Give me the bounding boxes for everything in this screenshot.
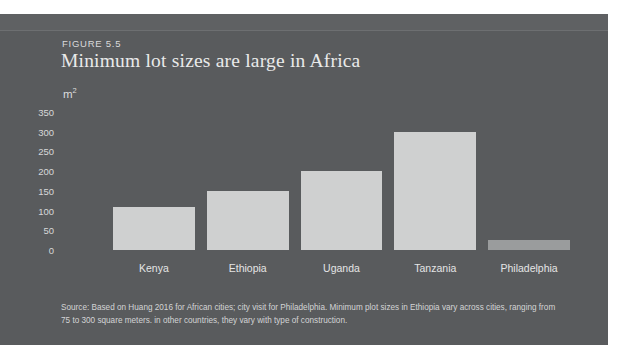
- bar[interactable]: [394, 132, 476, 250]
- y-axis-tick-label: 250: [10, 146, 54, 157]
- source-note: Source: Based on Huang 2016 for African …: [61, 302, 559, 327]
- y-axis-tick-label: 100: [10, 205, 54, 216]
- y-axis-tick-label: 350: [10, 107, 54, 118]
- y-axis-tick-label: 300: [10, 126, 54, 137]
- x-axis-category-label: Philadelphia: [500, 262, 557, 274]
- x-axis-category-label: Ethiopia: [229, 262, 267, 274]
- bar[interactable]: [207, 191, 289, 250]
- x-axis-category-label: Tanzania: [414, 262, 456, 274]
- x-axis-category-label: Kenya: [139, 262, 169, 274]
- x-axis-category-label: Uganda: [323, 262, 360, 274]
- bar[interactable]: [488, 240, 570, 250]
- bar-chart-plot: 050100150200250300350 KenyaEthiopiaUgand…: [0, 14, 608, 345]
- bar[interactable]: [301, 171, 383, 250]
- y-axis-tick-label: 50: [10, 225, 54, 236]
- y-axis-tick-label: 0: [10, 245, 54, 256]
- y-axis-tick-label: 200: [10, 166, 54, 177]
- y-axis-tick-label: 150: [10, 185, 54, 196]
- figure-panel: FIGURE 5.5 Minimum lot sizes are large i…: [0, 14, 608, 345]
- bar[interactable]: [113, 207, 195, 250]
